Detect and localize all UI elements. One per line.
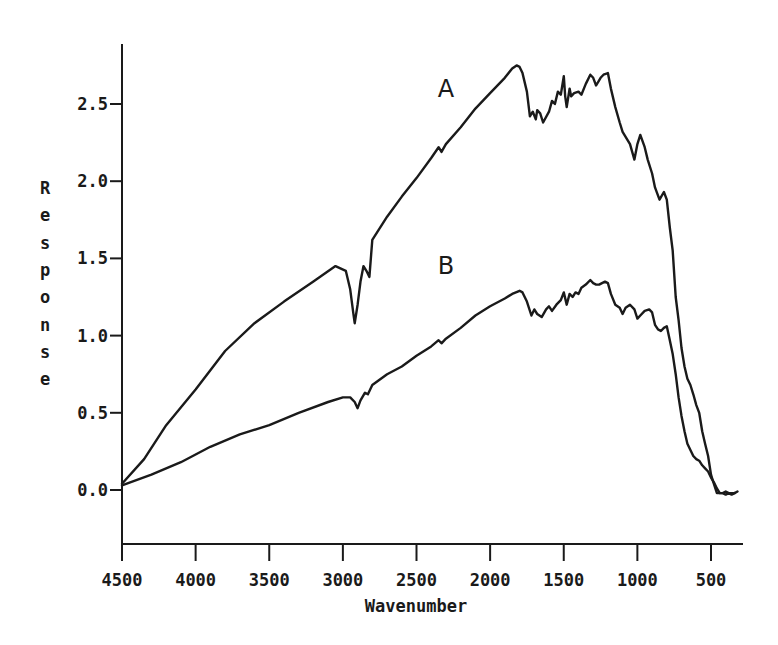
- x-tick-label: 1500: [543, 570, 584, 590]
- x-tick-label: 500: [696, 570, 727, 590]
- y-tick-label: 2.5: [77, 94, 108, 114]
- y-tick-label: 0.0: [77, 480, 108, 500]
- y-tick-label: 0.5: [77, 403, 108, 423]
- series-labels: AB: [438, 75, 455, 281]
- x-tick-label: 3500: [249, 570, 290, 590]
- y-axis-title-letter: e: [40, 205, 50, 225]
- spectrum-chart: 0.00.51.01.52.02.5 450040003500300025002…: [0, 0, 778, 645]
- x-axis-title: Wavenumber: [365, 596, 467, 616]
- y-axis-title-letter: o: [40, 287, 50, 307]
- series-label-b: B: [438, 252, 454, 280]
- series-layer: [122, 65, 738, 494]
- y-axis-title-letter: e: [40, 369, 50, 389]
- y-axis-title: Response: [40, 178, 51, 389]
- x-tick-label: 2500: [396, 570, 437, 590]
- y-axis-title-letter: s: [40, 342, 50, 362]
- series-label-a: A: [438, 75, 455, 103]
- series-line-b: [122, 280, 735, 495]
- x-tick-label: 4500: [102, 570, 143, 590]
- y-axis-title-letter: p: [40, 260, 50, 280]
- x-tick-label: 1000: [617, 570, 658, 590]
- y-axis-title-letter: n: [40, 315, 50, 335]
- series-line-a: [122, 65, 738, 493]
- axes: [122, 44, 743, 544]
- y-axis-title-letter: R: [40, 178, 51, 198]
- x-tick-label: 4000: [175, 570, 216, 590]
- x-tick-label: 2000: [470, 570, 511, 590]
- y-tick-label: 2.0: [77, 171, 108, 191]
- y-tick-label: 1.5: [77, 248, 108, 268]
- y-tick-label: 1.0: [77, 326, 108, 346]
- y-ticks: 0.00.51.01.52.02.5: [77, 94, 122, 500]
- x-tick-label: 3000: [322, 570, 363, 590]
- y-axis-title-letter: s: [40, 233, 50, 253]
- x-ticks: 45004000350030002500200015001000500: [102, 544, 727, 590]
